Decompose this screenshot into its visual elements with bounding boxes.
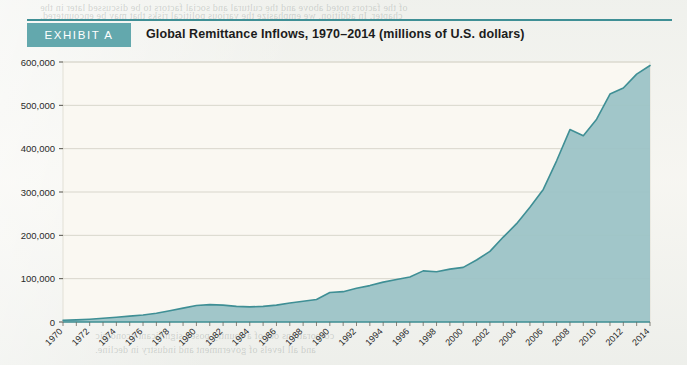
x-axis-tick-label: 1996 (390, 326, 411, 347)
x-axis-tick-label: 1980 (177, 326, 198, 347)
x-axis-tick-label: 2006 (523, 326, 544, 347)
y-axis-tick-label: 500,000 (21, 100, 55, 111)
exhibit-tag: EXHIBIT A (27, 23, 131, 47)
y-axis-tick-label: 400,000 (21, 143, 55, 154)
x-axis-tick-label: 2012 (603, 326, 624, 347)
x-axis-tick-label: 1998 (417, 326, 438, 347)
y-axis-tick-label: 300,000 (21, 187, 55, 198)
x-axis-tick-label: 1972 (70, 326, 91, 347)
x-axis-tick-label: 1978 (150, 326, 171, 347)
x-axis-tick-label: 1970 (43, 326, 64, 347)
chart-container: 0100,000200,000300,000400,000500,000600,… (0, 52, 687, 365)
exhibit-title: Global Remittance Inflows, 1970–2014 (mi… (146, 27, 525, 41)
y-axis-tick-label: 0 (50, 317, 55, 328)
y-axis-group: 0100,000200,000300,000400,000500,000600,… (21, 57, 63, 328)
x-axis-tick-label: 2002 (470, 326, 491, 347)
x-axis-tick-label: 1990 (310, 326, 331, 347)
remittance-area-chart: 0100,000200,000300,000400,000500,000600,… (0, 52, 687, 365)
x-axis-tick-label: 2014 (630, 326, 651, 347)
x-axis-tick-label: 2008 (550, 326, 571, 347)
y-axis-tick-label: 600,000 (21, 57, 55, 68)
x-axis-tick-label: 1994 (363, 326, 384, 347)
x-axis-tick-label: 2010 (577, 326, 598, 347)
y-axis-tick-label: 100,000 (21, 273, 55, 284)
x-axis-tick-label: 1976 (123, 326, 144, 347)
x-axis-tick-label: 2000 (443, 326, 464, 347)
x-axis-tick-label: 1974 (97, 326, 118, 347)
x-axis-group: 1970197219741976197819801982198419861988… (43, 322, 651, 348)
x-axis-tick-label: 1986 (257, 326, 278, 347)
y-axis-tick-label: 200,000 (21, 230, 55, 241)
x-axis-tick-label: 1984 (230, 326, 251, 347)
x-axis-tick-label: 1988 (283, 326, 304, 347)
exhibit-top-rule (27, 19, 672, 21)
x-axis-tick-label: 1992 (337, 326, 358, 347)
x-axis-tick-label: 2004 (497, 326, 518, 347)
x-axis-tick-label: 1982 (203, 326, 224, 347)
